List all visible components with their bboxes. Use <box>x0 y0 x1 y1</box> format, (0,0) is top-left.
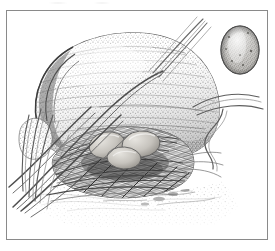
illustration-plate <box>0 0 275 251</box>
top-margin-marks <box>40 1 160 6</box>
nest-illustration-artwork <box>7 11 267 239</box>
